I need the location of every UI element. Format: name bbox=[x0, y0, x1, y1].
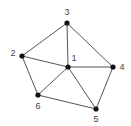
node-label-6: 6 bbox=[35, 101, 40, 111]
node-2 bbox=[19, 53, 24, 58]
edge-1-6 bbox=[38, 67, 68, 95]
edge-4-5 bbox=[96, 67, 113, 109]
edge-3-2 bbox=[22, 23, 67, 56]
node-label-1: 1 bbox=[71, 53, 76, 63]
node-label-2: 2 bbox=[10, 48, 15, 58]
node-1 bbox=[65, 64, 70, 69]
edge-6-5 bbox=[38, 95, 96, 109]
graph-diagram: 123456 bbox=[0, 0, 131, 126]
node-4 bbox=[110, 64, 115, 69]
node-5 bbox=[93, 106, 98, 111]
node-3 bbox=[64, 20, 69, 25]
edge-3-1 bbox=[67, 23, 68, 67]
node-label-3: 3 bbox=[64, 7, 69, 17]
edge-2-6 bbox=[22, 56, 38, 95]
edge-1-5 bbox=[68, 67, 96, 109]
edge-2-1 bbox=[22, 56, 68, 67]
node-label-5: 5 bbox=[93, 114, 98, 124]
node-label-4: 4 bbox=[119, 62, 124, 72]
node-6 bbox=[35, 92, 40, 97]
